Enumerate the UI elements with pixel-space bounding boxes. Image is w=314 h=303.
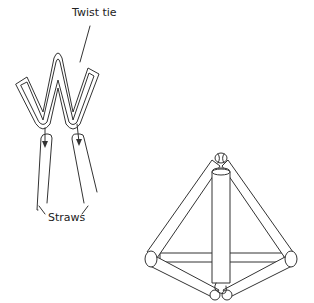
tetrahedron-illustration [145,153,297,300]
twist-tie-pointer [80,26,90,62]
twist-tie-label: Twist tie [72,6,117,19]
straws-label: Straws [48,211,85,224]
diagram-canvas [0,0,314,303]
straws-pointer-left [39,206,45,214]
straws-illustration [37,124,97,214]
twist-tie-illustration [16,26,99,129]
